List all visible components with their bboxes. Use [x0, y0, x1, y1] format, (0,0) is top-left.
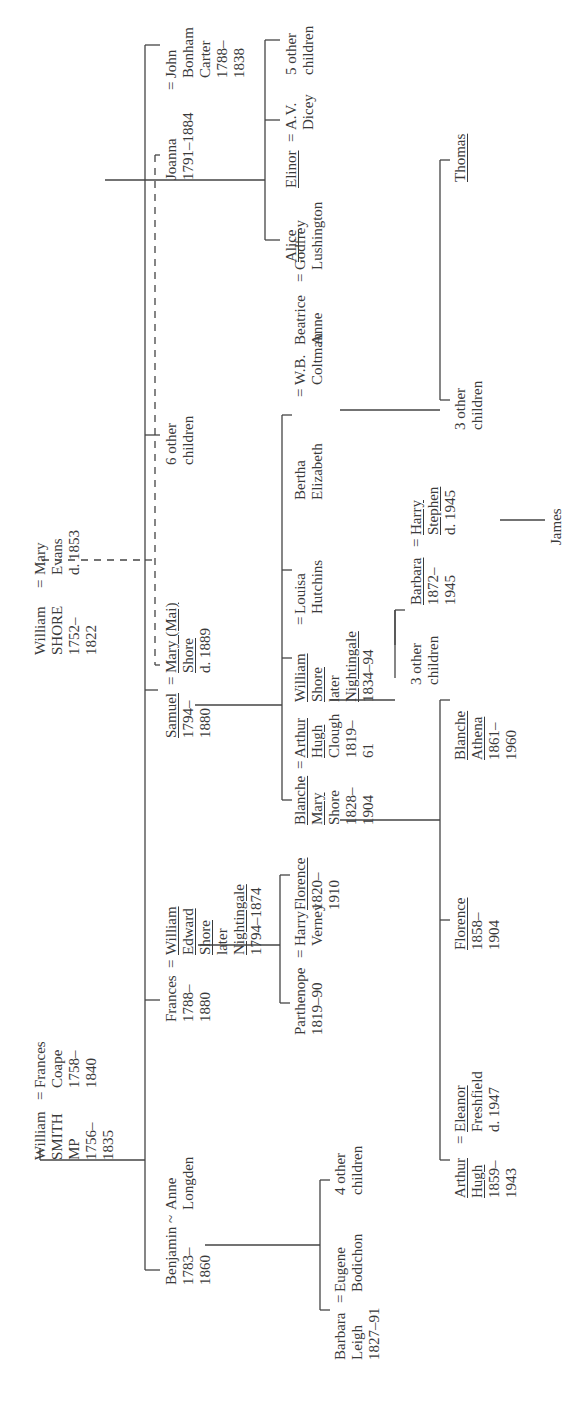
person-alice: Alice [283, 230, 300, 262]
person-mary-evans: MaryEvansd. 1853 [32, 530, 83, 575]
married-symbol: = [163, 82, 180, 90]
person-samuel: Samuel1794–1880 [163, 693, 214, 738]
person-blanche-mary-shore: BlancheMaryShore1828–1904 [292, 776, 377, 825]
person-james: James [548, 508, 565, 545]
person-eugene-bodichon: EugeneBodichon [332, 1234, 366, 1292]
person-frances-coape: FrancesCoape1758–1840 [32, 1041, 100, 1088]
person-barbara-stephen: Barbara1872–1945 [408, 558, 459, 605]
married-symbol: = [163, 677, 180, 685]
married-symbol: = [332, 1295, 349, 1303]
person-arthur-hugh: ArthurHugh1859–1943 [452, 1158, 520, 1198]
person-harry-stephen: HarryStephend. 1945 [408, 487, 459, 535]
three-other-children-b: 3 otherchildren [452, 381, 486, 430]
person-william-edward-shore: WilliamEdwardShorelaterNightingale1794–1… [163, 884, 265, 955]
person-eleanor-freshfield: EleanorFreshfieldd. 1947 [452, 1071, 503, 1132]
person-william-shore: WilliamSHORE1752–1822 [32, 606, 100, 655]
person-blanche-athena: BlancheAthena1861–1960 [452, 711, 520, 760]
person-joanna: Joanna1791–1884 [163, 113, 197, 181]
married-symbol: = [32, 1092, 49, 1100]
person-beatrice-anne: BeatriceAnne [292, 295, 326, 345]
partner-symbol: ~ [163, 1215, 180, 1223]
married-symbol: = [163, 960, 180, 968]
three-other-children-a: 3 otherchildren [408, 636, 442, 685]
married-symbol: = [292, 274, 309, 282]
person-arthur-hugh-clough: ArthurHughClough1819–61 [292, 714, 377, 758]
person-florence-nightingale: Florence1820–1910 [292, 858, 343, 910]
married-symbol: = [292, 617, 309, 625]
person-florence-clough: Florence1858–1904 [452, 898, 503, 950]
person-frances: Frances1788–1880 [163, 975, 214, 1022]
person-barbara-leigh: BarbaraLeigh1827–91 [332, 1308, 383, 1361]
married-symbol: = [292, 761, 309, 769]
married-symbol: = [452, 1136, 469, 1144]
married-symbol: = [32, 580, 49, 588]
married-symbol: = [292, 950, 309, 958]
person-william-smith: WilliamSMITHMP1756–1835 [32, 1111, 117, 1160]
family-tree-diagram: WilliamSMITHMP1756–1835 = FrancesCoape17… [0, 0, 575, 1420]
six-other-children: 6 otherchildren [163, 416, 197, 465]
person-benjamin: Benjamin1783–1860 [163, 1227, 214, 1285]
married-symbol: = [283, 134, 300, 142]
person-anne-longden: AnneLongden [163, 1157, 197, 1210]
person-elinor: Elinor [283, 151, 300, 189]
married-symbol: = [408, 539, 425, 547]
four-other-children: 4 otherchildren [332, 1146, 366, 1195]
person-bertha-elizabeth: BerthaElizabeth [292, 443, 326, 500]
person-thomas: Thomas [452, 134, 469, 182]
person-parthenope: Parthenope1819–90 [292, 968, 326, 1035]
person-louisa-hutchins: LouisaHutchins [292, 560, 326, 614]
married-symbol: = [292, 389, 309, 397]
person-mary-mai-shore: Mary (Mai)Shored. 1889 [163, 603, 214, 673]
person-av-dicey: A.V.Dicey [283, 94, 317, 130]
person-william-shore-nightingale: WilliamShorelaterNightingale1834–94 [292, 631, 377, 702]
five-other-children: 5 otherchildren [283, 26, 317, 75]
person-john-bonham-carter: JohnBonhamCarter1788–1838 [163, 27, 248, 78]
